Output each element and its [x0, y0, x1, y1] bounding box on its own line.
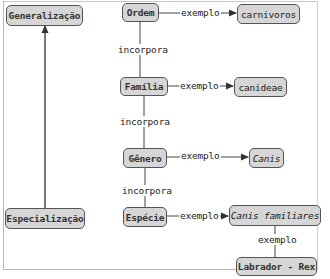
node-labrador-rex[interactable]: Labrador - Rex: [236, 257, 317, 276]
node-especie[interactable]: Espécie: [123, 207, 167, 227]
label-exemplo-4: exemplo: [179, 210, 220, 221]
label-incorpora-1: incorpora: [117, 44, 169, 55]
node-familia[interactable]: Família: [120, 77, 168, 96]
node-especializacao[interactable]: Especialização: [5, 208, 85, 229]
node-generalizacao[interactable]: Generalização: [6, 5, 83, 26]
label-incorpora-3: incorpora: [121, 185, 173, 196]
label-exemplo-5: exemplo: [257, 234, 298, 245]
label-exemplo-1: exemplo: [180, 7, 221, 18]
node-carnivoros[interactable]: carnivoros: [237, 4, 300, 24]
label-exemplo-2: exemplo: [179, 80, 220, 91]
node-genero[interactable]: Gênero: [123, 148, 167, 168]
node-ordem[interactable]: Ordem: [122, 3, 159, 22]
label-exemplo-3: exemplo: [180, 150, 221, 161]
node-canis-familiares[interactable]: Canis familiares: [229, 205, 321, 226]
node-canis[interactable]: Canis: [249, 148, 284, 168]
label-incorpora-2: incorpora: [119, 116, 171, 127]
node-canideae[interactable]: canideae: [234, 77, 287, 97]
